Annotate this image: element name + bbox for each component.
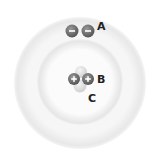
proton-1 [68,73,80,85]
label-b: B [97,74,105,85]
proton-2 [82,73,94,85]
label-c: C [88,93,96,104]
electron-1 [66,25,79,38]
electron-2 [82,25,95,38]
atom-diagram [0,0,161,159]
label-a: A [97,21,106,32]
